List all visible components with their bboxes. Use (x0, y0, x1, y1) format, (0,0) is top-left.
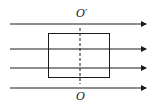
magnetic-field-loop-diagram: O′ O (0, 0, 152, 111)
label-o: O (76, 90, 85, 103)
label-o-prime: O′ (76, 7, 88, 20)
diagram-canvas: O′ O (0, 0, 152, 111)
rectangular-loop (49, 34, 110, 78)
